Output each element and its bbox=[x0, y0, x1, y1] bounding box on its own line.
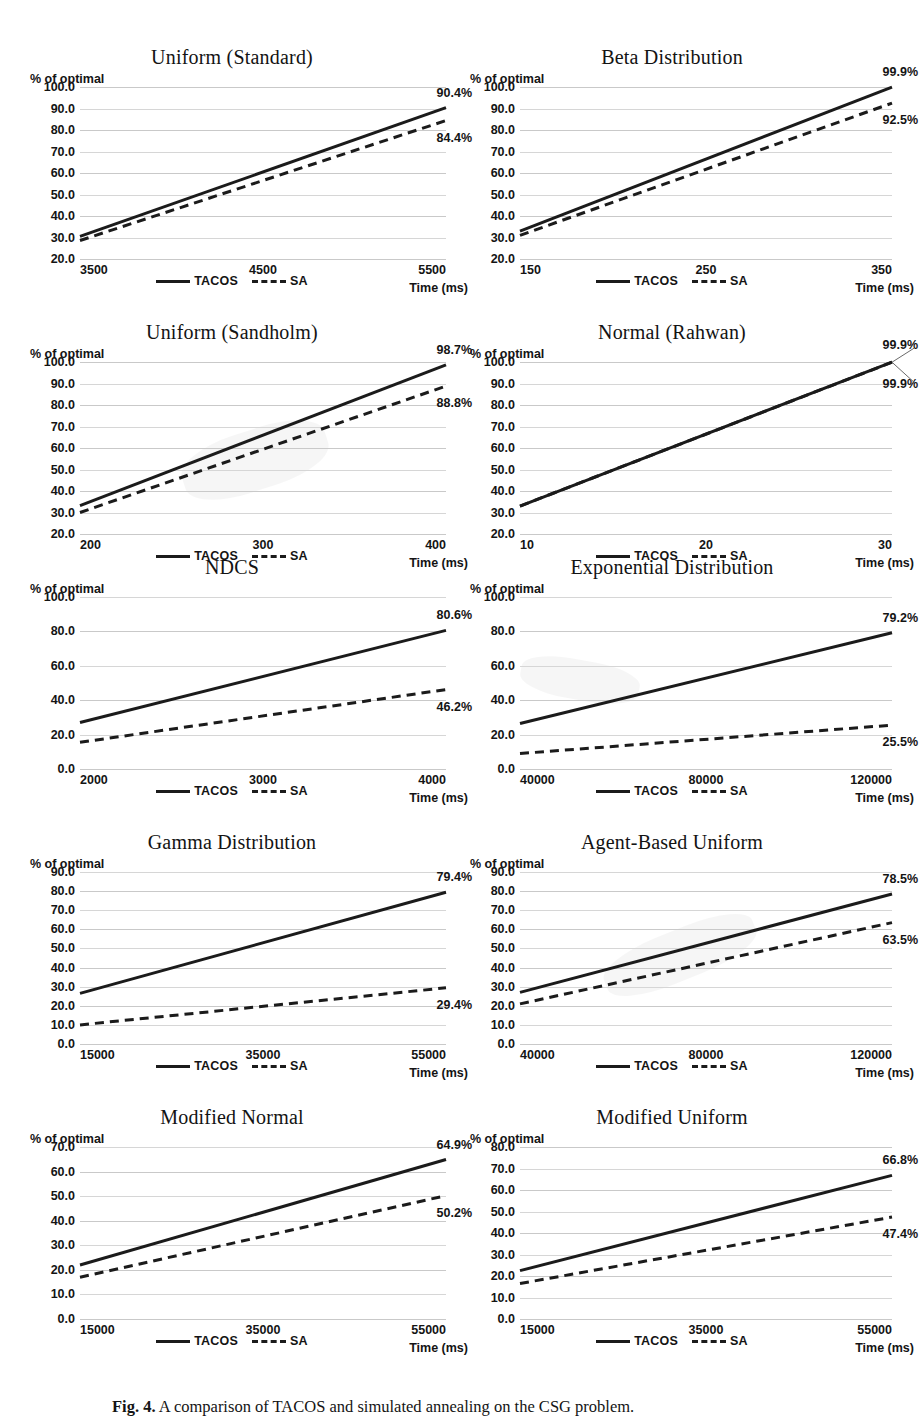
gridline bbox=[80, 769, 446, 770]
data-label-tacos: 79.2% bbox=[883, 611, 918, 625]
y-tick-label: 70.0 bbox=[491, 1162, 515, 1176]
legend-swatch-tacos bbox=[156, 1340, 190, 1343]
legend-swatch-sa bbox=[252, 790, 286, 793]
y-tick-label: 70.0 bbox=[51, 1140, 75, 1154]
y-tick-label: 0.0 bbox=[498, 1037, 515, 1051]
data-label-tacos: 99.9% bbox=[883, 338, 918, 352]
y-tick-label: 40.0 bbox=[51, 209, 75, 223]
y-tick-label: 90.0 bbox=[491, 865, 515, 879]
chart-title: Modified Normal bbox=[22, 1106, 442, 1129]
y-tick-label: 100.0 bbox=[44, 80, 75, 94]
legend-item-sa: SA bbox=[252, 784, 308, 798]
series-line-sa bbox=[520, 725, 892, 753]
series-line-sa bbox=[520, 1217, 892, 1283]
y-tick-label: 30.0 bbox=[491, 1248, 515, 1262]
series-line-tacos bbox=[80, 365, 446, 506]
y-tick-label: 20.0 bbox=[51, 527, 75, 541]
y-tick-label: 80.0 bbox=[51, 398, 75, 412]
figure-container: Uniform (Standard)% of optimal20.030.040… bbox=[0, 0, 920, 1422]
legend-label-sa: SA bbox=[290, 274, 308, 288]
y-tick-label: 50.0 bbox=[51, 1189, 75, 1203]
y-tick-label: 10.0 bbox=[51, 1018, 75, 1032]
legend-item-tacos: TACOS bbox=[156, 784, 238, 798]
legend-item-sa: SA bbox=[252, 274, 308, 288]
y-tick-label: 50.0 bbox=[491, 941, 515, 955]
series-line-tacos bbox=[80, 630, 446, 722]
y-tick-label: 20.0 bbox=[491, 252, 515, 266]
legend-swatch-sa bbox=[692, 790, 726, 793]
legend-item-sa: SA bbox=[252, 1334, 308, 1348]
series-canvas bbox=[80, 87, 446, 259]
legend-label-sa: SA bbox=[730, 1059, 748, 1073]
y-tick-label: 20.0 bbox=[491, 999, 515, 1013]
figure-caption-text: A comparison of TACOS and simulated anne… bbox=[159, 1397, 634, 1416]
chart-legend: TACOSSA bbox=[22, 274, 442, 288]
y-tick-label: 40.0 bbox=[491, 1226, 515, 1240]
series-canvas bbox=[80, 362, 446, 534]
legend-item-tacos: TACOS bbox=[156, 1059, 238, 1073]
legend-label-tacos: TACOS bbox=[634, 1334, 678, 1348]
legend-label-sa: SA bbox=[290, 1059, 308, 1073]
y-tick-label: 90.0 bbox=[51, 865, 75, 879]
series-line-sa bbox=[80, 1196, 446, 1278]
y-tick-label: 90.0 bbox=[491, 102, 515, 116]
legend-item-tacos: TACOS bbox=[156, 274, 238, 288]
chart-beta-distribution: Beta Distribution% of optimal20.030.040.… bbox=[462, 46, 882, 308]
y-tick-label: 60.0 bbox=[491, 922, 515, 936]
chart-legend: TACOSSA bbox=[462, 1334, 882, 1348]
chart-ndcs: NDCS% of optimal0.020.040.060.080.0100.0… bbox=[22, 556, 442, 818]
series-line-sa bbox=[80, 988, 446, 1025]
legend-item-sa: SA bbox=[692, 784, 748, 798]
y-tick-label: 40.0 bbox=[491, 484, 515, 498]
chart-legend: TACOSSA bbox=[462, 274, 882, 288]
legend-label-tacos: TACOS bbox=[194, 1059, 238, 1073]
y-tick-label: 80.0 bbox=[491, 398, 515, 412]
series-line-tacos bbox=[520, 894, 892, 992]
y-tick-label: 70.0 bbox=[491, 420, 515, 434]
legend-label-sa: SA bbox=[290, 1334, 308, 1348]
chart-title: Uniform (Sandholm) bbox=[22, 321, 442, 344]
y-tick-label: 80.0 bbox=[491, 884, 515, 898]
legend-label-tacos: TACOS bbox=[194, 274, 238, 288]
y-tick-label: 80.0 bbox=[51, 624, 75, 638]
series-canvas bbox=[520, 87, 892, 259]
legend-swatch-sa bbox=[692, 1065, 726, 1068]
y-tick-label: 40.0 bbox=[491, 693, 515, 707]
y-tick-label: 60.0 bbox=[51, 441, 75, 455]
chart-title: Agent-Based Uniform bbox=[462, 831, 882, 854]
gridline bbox=[520, 1319, 892, 1320]
y-tick-label: 80.0 bbox=[491, 624, 515, 638]
legend-label-sa: SA bbox=[290, 784, 308, 798]
series-line-tacos bbox=[520, 87, 892, 231]
plot-area: 0.020.040.060.080.0100.0200030004000Time… bbox=[80, 597, 446, 769]
legend-swatch-sa bbox=[252, 1065, 286, 1068]
plot-area: 20.030.040.050.060.070.080.090.0100.0150… bbox=[520, 87, 892, 259]
data-label-tacos: 78.5% bbox=[883, 872, 918, 886]
y-tick-label: 20.0 bbox=[51, 252, 75, 266]
gridline bbox=[80, 259, 446, 260]
series-line-tacos bbox=[520, 633, 892, 724]
gridline bbox=[80, 534, 446, 535]
chart-legend: TACOSSA bbox=[462, 784, 882, 798]
data-label-tacos: 66.8% bbox=[883, 1153, 918, 1167]
legend-swatch-tacos bbox=[596, 1065, 630, 1068]
data-label-sa: 63.5% bbox=[883, 933, 918, 947]
y-tick-label: 50.0 bbox=[51, 463, 75, 477]
plot-area: 0.010.020.030.040.050.060.070.080.015000… bbox=[520, 1147, 892, 1319]
y-tick-label: 10.0 bbox=[491, 1291, 515, 1305]
series-canvas bbox=[80, 872, 446, 1044]
y-tick-label: 40.0 bbox=[491, 961, 515, 975]
y-tick-label: 60.0 bbox=[51, 166, 75, 180]
legend-swatch-sa bbox=[692, 1340, 726, 1343]
series-line-tacos bbox=[520, 1175, 892, 1270]
plot-area: 20.030.040.050.060.070.080.090.0100.0102… bbox=[520, 362, 892, 534]
y-tick-label: 90.0 bbox=[51, 102, 75, 116]
chart-normal-rahwan: Normal (Rahwan)% of optimal20.030.040.05… bbox=[462, 321, 882, 583]
legend-swatch-tacos bbox=[596, 1340, 630, 1343]
plot-area: 0.010.020.030.040.050.060.070.0150003500… bbox=[80, 1147, 446, 1319]
y-tick-label: 0.0 bbox=[498, 762, 515, 776]
series-line-sa bbox=[80, 386, 446, 512]
gridline bbox=[520, 769, 892, 770]
data-label-sa: 47.4% bbox=[883, 1227, 918, 1241]
y-tick-label: 40.0 bbox=[51, 484, 75, 498]
